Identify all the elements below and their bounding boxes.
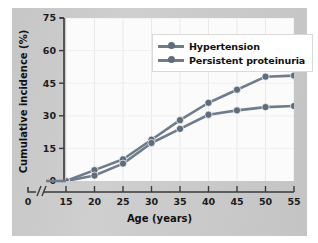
figure-panel: Cumulative incidence (%) 015304560750152…: [12, 8, 307, 236]
legend-label: Hypertension: [189, 41, 260, 52]
chart-legend: Hypertension Persistent proteinuria: [152, 34, 313, 72]
legend-item-persistent-proteinuria: Persistent proteinuria: [158, 53, 305, 67]
data-point: [148, 139, 155, 146]
data-point: [176, 125, 183, 132]
legend-label: Persistent proteinuria: [189, 55, 305, 66]
y-axis-title: Cumulative incidence (%): [19, 29, 30, 172]
data-point: [205, 111, 212, 118]
data-point: [290, 72, 294, 79]
legend-marker-icon: [158, 41, 184, 51]
data-point: [176, 117, 183, 124]
legend-item-hypertension: Hypertension: [158, 39, 305, 53]
data-point: [91, 172, 98, 179]
data-point: [262, 73, 269, 80]
data-point: [205, 99, 212, 106]
data-point: [233, 107, 240, 114]
y-axis-title-container: Cumulative incidence (%): [16, 8, 32, 194]
data-point: [290, 102, 294, 109]
legend-marker-icon: [158, 55, 184, 65]
data-point: [262, 104, 269, 111]
data-point: [119, 160, 126, 167]
data-point: [233, 86, 240, 93]
x-axis-title: Age (years): [12, 213, 307, 224]
data-point: [66, 177, 70, 181]
